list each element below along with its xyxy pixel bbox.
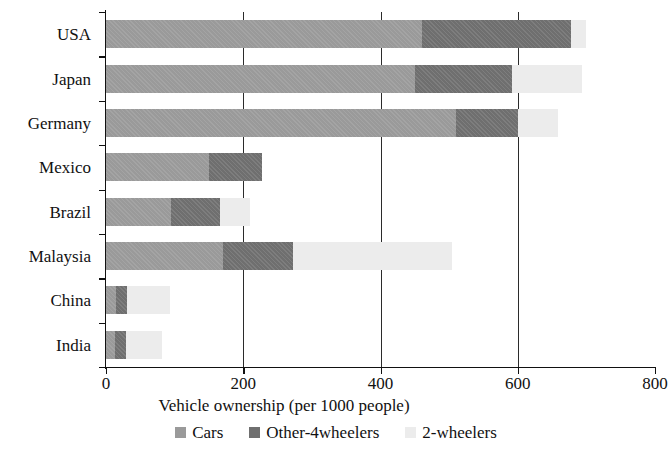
bar-group [106, 153, 262, 181]
x-axis-tick-label: 0 [102, 375, 111, 392]
legend-item[interactable]: Cars [175, 424, 223, 441]
legend-label: 2-wheelers [422, 424, 497, 441]
y-axis-category-label: Brazil [49, 204, 91, 221]
bar-segment-2-wheelers [220, 198, 250, 226]
bar-segment-cars [106, 153, 209, 181]
bar-group [106, 109, 558, 137]
legend-item[interactable]: 2-wheelers [405, 424, 497, 441]
x-axis-tick-label: 400 [368, 375, 394, 392]
bar-segment-other-4wheelers [209, 153, 262, 181]
bar-segment-cars [106, 286, 116, 314]
bar-segment-other-4wheelers [171, 198, 220, 226]
bar-segment-cars [106, 242, 223, 270]
bar-group [106, 286, 170, 314]
y-axis-category-label: Malaysia [29, 248, 91, 265]
y-axis-tick [99, 12, 106, 13]
bar-group [106, 242, 452, 270]
y-axis-tick [99, 101, 106, 102]
y-axis-tick [99, 145, 106, 146]
legend-label: Other-4wheelers [266, 424, 379, 441]
x-axis-tick [106, 367, 107, 374]
y-axis-tick [99, 234, 106, 235]
y-axis-category-label: Mexico [39, 159, 91, 176]
bar-segment-cars [106, 331, 115, 359]
y-axis-tick [99, 367, 106, 368]
x-axis-tick [381, 367, 382, 374]
plot-area [106, 12, 655, 367]
chart-legend: CarsOther-4wheelers2-wheelers [0, 424, 672, 441]
x-axis-tick [655, 367, 656, 374]
legend-item[interactable]: Other-4wheelers [249, 424, 379, 441]
bar-segment-2-wheelers [127, 286, 170, 314]
y-axis-category-label: India [56, 337, 91, 354]
bar-segment-2-wheelers [518, 109, 558, 137]
y-axis-tick [99, 278, 106, 279]
bar-group [106, 20, 586, 48]
x-axis-tick [243, 367, 244, 374]
bar-segment-other-4wheelers [223, 242, 294, 270]
y-axis-category-labels: USAJapanGermanyMexicoBrazilMalaysiaChina… [0, 12, 105, 367]
bar-segment-cars [106, 198, 171, 226]
bar-group [106, 331, 162, 359]
bar-segment-cars [106, 20, 422, 48]
chart-figure: USAJapanGermanyMexicoBrazilMalaysiaChina… [0, 0, 672, 450]
x-axis-tick-label: 200 [231, 375, 257, 392]
bar-segment-other-4wheelers [422, 20, 572, 48]
bar-segment-2-wheelers [126, 331, 162, 359]
bar-segment-other-4wheelers [415, 65, 512, 93]
y-axis-category-label: China [50, 292, 91, 309]
legend-swatch-other-4wheelers [249, 427, 260, 438]
legend-swatch-2-wheelers [405, 427, 416, 438]
bar-group [106, 65, 582, 93]
bar-segment-2-wheelers [571, 20, 586, 48]
y-axis-tick [99, 323, 106, 324]
bar-segment-2-wheelers [512, 65, 582, 93]
x-axis-tick-label: 600 [505, 375, 531, 392]
x-axis-title: Vehicle ownership (per 1000 people) [0, 397, 672, 414]
legend-label: Cars [192, 424, 223, 441]
y-axis-category-label: USA [57, 26, 91, 43]
y-axis-category-label: Germany [28, 115, 91, 132]
y-axis-tick [99, 190, 106, 191]
bar-segment-cars [106, 65, 415, 93]
bar-segment-other-4wheelers [456, 109, 518, 137]
bar-segment-other-4wheelers [115, 331, 126, 359]
y-axis-tick [99, 56, 106, 57]
bar-group [106, 198, 250, 226]
x-axis-tick [518, 367, 519, 374]
bar-segment-other-4wheelers [116, 286, 127, 314]
bar-segment-2-wheelers [293, 242, 452, 270]
x-axis-tick-label: 800 [642, 375, 668, 392]
legend-swatch-cars [175, 427, 186, 438]
bar-segment-cars [106, 109, 456, 137]
y-axis-category-label: Japan [52, 71, 91, 88]
x-axis-title-text: Vehicle ownership (per 1000 people) [158, 396, 409, 415]
